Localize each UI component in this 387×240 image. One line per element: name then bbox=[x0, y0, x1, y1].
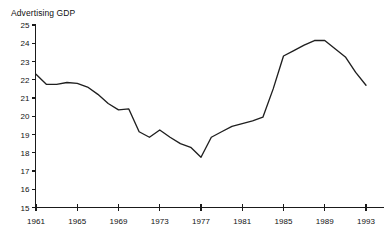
x-tick-label: 1965 bbox=[68, 217, 86, 226]
y-tick-label: 25 bbox=[21, 21, 30, 30]
y-tick-label: 21 bbox=[21, 94, 30, 103]
y-tick-label: 16 bbox=[21, 185, 30, 194]
y-tick-label: 17 bbox=[21, 167, 30, 176]
chart-container: — —— ——— —— — Advertising GDP 1516171819… bbox=[0, 0, 387, 240]
y-tick-label: 22 bbox=[21, 76, 30, 85]
data-series-group bbox=[36, 41, 366, 158]
y-tick-label: 18 bbox=[21, 149, 30, 158]
advertising-gdp-line bbox=[36, 41, 366, 158]
x-tick-label: 1989 bbox=[316, 217, 334, 226]
y-tick-label: 20 bbox=[21, 112, 30, 121]
x-tick-label: 1961 bbox=[27, 217, 45, 226]
x-tick-label: 1973 bbox=[151, 217, 169, 226]
y-tick-label: 15 bbox=[21, 204, 30, 213]
line-chart-plot: 1516171819202122232425 19611965196919731… bbox=[0, 0, 387, 240]
x-tick-label: 1985 bbox=[275, 217, 293, 226]
y-axis: 1516171819202122232425 bbox=[21, 21, 36, 213]
x-axis: 196119651969197319771981198519891993 bbox=[27, 204, 384, 225]
x-tick-label: 1969 bbox=[110, 217, 128, 226]
y-tick-label: 23 bbox=[21, 58, 30, 67]
y-tick-label: 19 bbox=[21, 131, 30, 140]
x-tick-label: 1993 bbox=[357, 217, 375, 226]
x-tick-label: 1981 bbox=[233, 217, 251, 226]
x-tick-label: 1977 bbox=[192, 217, 210, 226]
y-tick-label: 24 bbox=[21, 39, 30, 48]
